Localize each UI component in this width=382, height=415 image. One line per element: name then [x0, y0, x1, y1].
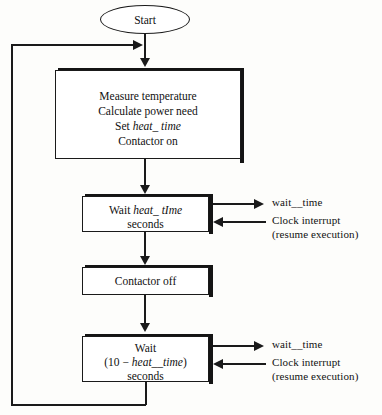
node-measure-line1: Measure temperature: [56, 90, 240, 104]
arrowhead-contactor-off-to-wait-remainder: [140, 323, 150, 332]
arrowhead-wait-heat-to-contactor-off: [140, 256, 150, 265]
arrowhead-wait-remainder-in: [213, 359, 223, 369]
loop-horizontal-bottom: [11, 404, 146, 406]
loop-vertical-left: [11, 44, 13, 406]
arrowhead-wait-heat-in: [213, 217, 223, 227]
arrowhead-wait-heat-out: [254, 199, 264, 209]
label-upper-wait-time: wait__time: [272, 196, 323, 208]
node-wait-remainder-line2-close: ): [183, 356, 187, 368]
arrowhead-loop-return: [133, 40, 143, 50]
node-wait-remainder-line3: seconds: [83, 370, 208, 384]
connector-wait-remainder-out: [213, 345, 257, 347]
node-start: Start: [100, 5, 190, 34]
loop-horizontal-top: [11, 44, 139, 46]
connector-wait-remainder-in: [222, 363, 266, 365]
node-wait-remainder-line2-open: (10 −: [104, 356, 132, 368]
node-wait-heat: Wait heat_ tIme seconds: [82, 196, 209, 232]
node-wait-heat-line2: seconds: [83, 218, 208, 232]
label-lower-resume-execution: (resume execution): [272, 370, 358, 382]
node-wait-heat-shadow-right: [209, 194, 213, 234]
loop-vertical-bottom-riser: [145, 382, 147, 405]
label-upper-clock-interrupt: Clock interrupt: [272, 214, 340, 226]
node-contactor-off: Contactor off: [82, 267, 209, 295]
node-measure-line3-variable: heat_ time: [133, 120, 181, 132]
node-wait-heat-line1-variable: heat_ tIme: [133, 204, 182, 216]
node-wait-remainder: Wait (10 − heat__time) seconds: [82, 336, 209, 382]
node-measure: Measure temperature Calculate power need…: [55, 70, 241, 159]
node-measure-line2: Calculate power need: [56, 105, 240, 119]
node-wait-remainder-line2: (10 − heat__time): [83, 356, 208, 370]
connector-wait-heat-in: [222, 221, 266, 223]
node-contactor-off-label: Contactor off: [83, 275, 208, 289]
node-wait-remainder-line1: Wait: [83, 342, 208, 356]
node-wait-heat-line1-prefix: Wait: [109, 204, 133, 216]
arrowhead-start-to-measure: [140, 58, 150, 67]
label-lower-wait-time: wait__time: [272, 338, 323, 350]
connector-wait-heat-out: [213, 203, 257, 205]
node-contactor-off-shadow-right: [209, 265, 213, 297]
arrowhead-wait-remainder-out: [254, 341, 264, 351]
node-measure-line3: Set heat_ time: [56, 120, 240, 134]
node-measure-line3-prefix: Set: [115, 120, 133, 132]
node-wait-remainder-line2-variable: heat__time: [132, 356, 183, 368]
label-lower-clock-interrupt: Clock interrupt: [272, 356, 340, 368]
label-upper-resume-execution: (resume execution): [272, 228, 358, 240]
node-start-label: Start: [134, 14, 156, 26]
arrowhead-measure-to-wait-heat: [140, 185, 150, 194]
flowchart-canvas: Start Measure temperature Calculate powe…: [0, 0, 382, 415]
node-wait-heat-line1: Wait heat_ tIme: [83, 204, 208, 218]
node-measure-line4: Contactor on: [56, 135, 240, 149]
